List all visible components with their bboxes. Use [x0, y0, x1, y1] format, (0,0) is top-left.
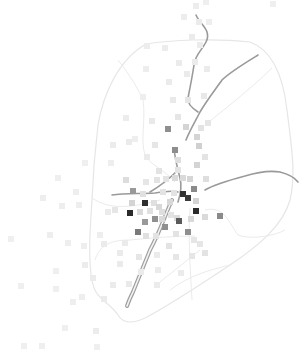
data-point-marker[interactable]: [143, 66, 149, 72]
data-point-marker[interactable]: [189, 34, 195, 40]
data-point-marker[interactable]: [123, 115, 129, 121]
data-point-marker[interactable]: [62, 325, 68, 331]
data-point-marker[interactable]: [105, 209, 111, 215]
data-point-marker[interactable]: [194, 134, 200, 140]
data-point-marker[interactable]: [160, 189, 166, 195]
data-point-marker[interactable]: [149, 118, 155, 124]
data-point-marker[interactable]: [156, 168, 162, 174]
data-point-marker[interactable]: [79, 294, 85, 300]
data-point-marker[interactable]: [175, 167, 181, 173]
data-point-marker[interactable]: [172, 175, 178, 181]
data-point-marker[interactable]: [203, 0, 209, 5]
data-point-marker[interactable]: [159, 216, 165, 222]
data-point-marker[interactable]: [101, 241, 107, 247]
data-point-marker[interactable]: [76, 202, 82, 208]
data-point-marker[interactable]: [144, 43, 150, 49]
data-point-marker[interactable]: [123, 177, 129, 183]
data-point-marker[interactable]: [175, 114, 181, 120]
data-point-marker[interactable]: [178, 270, 184, 276]
data-point-marker[interactable]: [135, 229, 141, 235]
data-point-marker[interactable]: [205, 120, 211, 126]
data-point-marker[interactable]: [140, 94, 146, 100]
data-point-marker[interactable]: [21, 343, 27, 349]
data-point-marker[interactable]: [142, 219, 148, 225]
data-point-marker[interactable]: [152, 142, 158, 148]
data-point-marker[interactable]: [53, 268, 59, 274]
data-point-marker[interactable]: [93, 328, 99, 334]
data-point-marker[interactable]: [94, 344, 100, 350]
data-point-marker[interactable]: [270, 1, 276, 7]
data-point-marker[interactable]: [143, 179, 149, 185]
data-point-marker[interactable]: [193, 208, 199, 214]
data-point-marker[interactable]: [202, 214, 208, 220]
data-point-marker[interactable]: [166, 243, 172, 249]
data-point-marker[interactable]: [90, 275, 96, 281]
data-point-marker[interactable]: [55, 175, 61, 181]
data-point-marker[interactable]: [138, 269, 144, 275]
data-point-marker[interactable]: [81, 243, 87, 249]
data-point-marker[interactable]: [18, 283, 24, 289]
data-point-marker[interactable]: [176, 218, 182, 224]
data-point-marker[interactable]: [203, 176, 209, 182]
data-point-marker[interactable]: [184, 71, 190, 77]
data-point-marker[interactable]: [82, 262, 88, 268]
data-point-marker[interactable]: [70, 299, 76, 305]
data-point-marker[interactable]: [144, 154, 150, 160]
data-point-marker[interactable]: [193, 198, 199, 204]
data-point-marker[interactable]: [147, 208, 153, 214]
data-point-marker[interactable]: [117, 261, 123, 267]
data-point-marker[interactable]: [191, 186, 197, 192]
data-point-marker[interactable]: [176, 60, 182, 66]
data-point-marker[interactable]: [198, 125, 204, 131]
data-point-marker[interactable]: [130, 188, 136, 194]
data-point-marker[interactable]: [165, 126, 171, 132]
data-point-marker[interactable]: [201, 93, 207, 99]
data-point-marker[interactable]: [188, 216, 194, 222]
data-point-marker[interactable]: [53, 286, 59, 292]
data-point-marker[interactable]: [173, 254, 179, 260]
data-point-marker[interactable]: [191, 237, 197, 243]
data-point-marker[interactable]: [137, 209, 143, 215]
data-point-marker[interactable]: [193, 3, 199, 9]
data-point-marker[interactable]: [59, 203, 65, 209]
data-point-marker[interactable]: [183, 124, 189, 130]
data-point-marker[interactable]: [197, 42, 203, 48]
data-point-marker[interactable]: [171, 190, 177, 196]
data-point-marker[interactable]: [197, 241, 203, 247]
data-point-marker[interactable]: [187, 176, 193, 182]
data-point-marker[interactable]: [175, 157, 181, 163]
data-point-marker[interactable]: [154, 177, 160, 183]
data-point-marker[interactable]: [194, 162, 200, 168]
data-point-marker[interactable]: [152, 216, 158, 222]
data-point-marker[interactable]: [189, 253, 195, 259]
data-point-marker[interactable]: [168, 212, 174, 218]
map-canvas[interactable]: [0, 0, 308, 350]
data-point-marker[interactable]: [173, 231, 179, 237]
data-point-marker[interactable]: [126, 281, 132, 287]
data-point-marker[interactable]: [202, 154, 208, 160]
data-point-marker[interactable]: [47, 232, 53, 238]
data-point-marker[interactable]: [166, 79, 172, 85]
data-point-marker[interactable]: [192, 59, 198, 65]
data-point-marker[interactable]: [140, 191, 146, 197]
data-point-marker[interactable]: [204, 66, 210, 72]
data-point-marker[interactable]: [159, 209, 165, 215]
data-point-marker[interactable]: [142, 200, 148, 206]
data-point-marker[interactable]: [162, 45, 168, 51]
data-point-marker[interactable]: [162, 224, 168, 230]
data-point-marker[interactable]: [154, 252, 160, 258]
data-point-marker[interactable]: [39, 343, 45, 349]
data-point-marker[interactable]: [126, 139, 132, 145]
data-point-marker[interactable]: [117, 250, 123, 256]
data-point-marker[interactable]: [101, 296, 107, 302]
data-point-marker[interactable]: [163, 176, 169, 182]
data-point-marker[interactable]: [202, 250, 208, 256]
data-point-marker[interactable]: [65, 240, 71, 246]
data-point-marker[interactable]: [112, 207, 118, 213]
data-point-marker[interactable]: [181, 14, 187, 20]
data-point-marker[interactable]: [73, 189, 79, 195]
data-point-marker[interactable]: [143, 233, 149, 239]
data-point-marker[interactable]: [155, 267, 161, 273]
data-point-marker[interactable]: [185, 229, 191, 235]
data-point-marker[interactable]: [110, 282, 116, 288]
